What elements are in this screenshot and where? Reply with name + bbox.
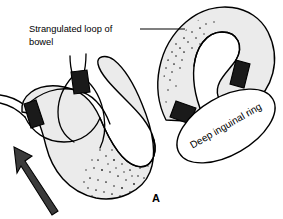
strangulated-loop-label-line2: bowel xyxy=(29,37,53,47)
constriction-band-top xyxy=(71,70,90,94)
strangulated-loop-callout: Strangulated loop of bowel xyxy=(29,24,185,47)
strangulated-bowel-loop xyxy=(0,54,155,215)
herniated-bowel-loop: Deep inguinal ring xyxy=(158,7,283,178)
strangulated-loop-label-line1: Strangulated loop of xyxy=(29,24,113,34)
medical-illustration-figure: Deep inguinal ring Strangulated loop of … xyxy=(0,0,283,219)
panel-letter: A xyxy=(152,192,160,204)
figure-canvas: Deep inguinal ring Strangulated loop of … xyxy=(0,0,283,219)
